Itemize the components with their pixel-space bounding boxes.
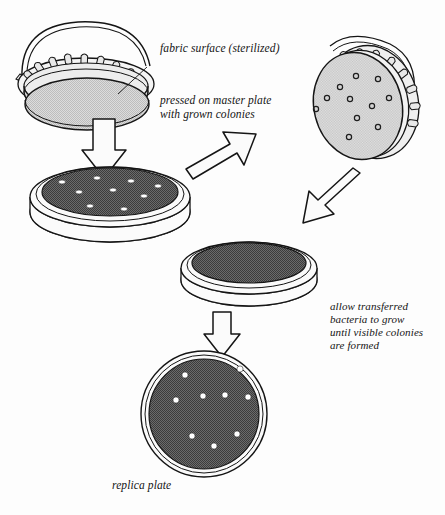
diagram-canvas bbox=[0, 0, 445, 515]
replica-agar bbox=[149, 359, 259, 469]
arrow-incubate-down bbox=[204, 312, 240, 357]
step-fresh-plate bbox=[181, 242, 317, 306]
label-allow-transferred-bacteria: allow transferred bacteria to grow until… bbox=[330, 300, 423, 352]
fresh-agar bbox=[192, 243, 306, 283]
fabric-surface bbox=[25, 78, 149, 130]
step-replica-plate bbox=[141, 351, 267, 477]
label-pressed-on-master-plate: pressed on master plate with grown colon… bbox=[160, 94, 271, 121]
arrow-transfer-down bbox=[303, 168, 360, 223]
step-velvet-block-raised bbox=[16, 22, 154, 130]
label-replica-plate: replica plate bbox=[112, 479, 171, 493]
label-fabric-surface: fabric surface (sterilized) bbox=[160, 42, 280, 56]
master-agar bbox=[42, 168, 178, 216]
step-velvet-block-imprinted bbox=[302, 36, 430, 169]
arrow-lift-right bbox=[186, 132, 256, 179]
replica-plating-figure: fabric surface (sterilized) pressed on m… bbox=[0, 0, 445, 515]
step-master-plate bbox=[30, 167, 190, 242]
